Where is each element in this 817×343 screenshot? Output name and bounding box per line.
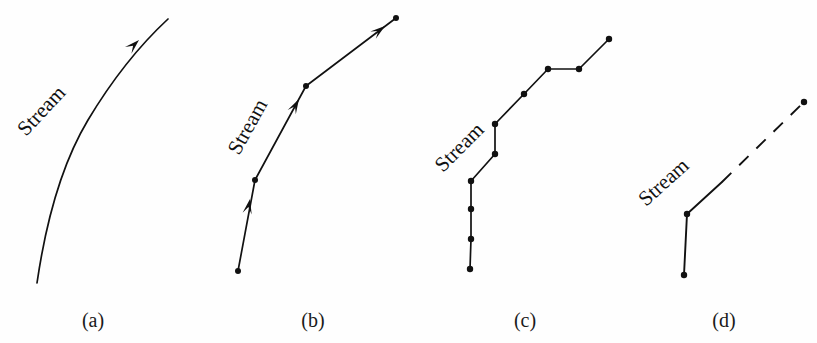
arrowhead	[288, 99, 299, 114]
panel-a-drawing: Stream	[12, 19, 168, 283]
stream-label-c: Stream	[430, 118, 489, 177]
stream-node-dot	[252, 177, 258, 183]
stream-node-dot	[393, 15, 399, 21]
panel-caption-c: (c)	[495, 310, 555, 330]
vertex-group-c	[467, 36, 612, 272]
figure-drawing-canvas: Stream Stream Stream Stream	[0, 0, 817, 343]
stream-segments-b	[238, 18, 396, 271]
stream-node-dot	[684, 211, 690, 217]
panel-caption-a: (a)	[63, 310, 123, 330]
panel-d-drawing: Stream	[633, 99, 807, 278]
stream-node-dot	[492, 151, 498, 157]
vertex-group-b	[235, 15, 399, 274]
stream-node-dot	[681, 272, 687, 278]
stream-node-dot	[303, 83, 309, 89]
stream-solid-segments-d	[684, 182, 722, 275]
panel-caption-d: (d)	[694, 310, 754, 330]
stream-node-dot	[468, 236, 474, 242]
stream-segment	[684, 214, 687, 275]
stream-node-dot	[576, 66, 582, 72]
stream-node-dot	[545, 66, 551, 72]
stream-label-d: Stream	[633, 153, 693, 211]
stream-node-dot	[801, 99, 807, 105]
stream-node-dot	[468, 178, 474, 184]
stream-polyline-c	[470, 39, 609, 269]
stream-node-dot	[468, 206, 474, 212]
stream-representation-figure: Stream Stream Stream Stream (a) (b) (c) …	[0, 0, 817, 343]
panel-caption-b: (b)	[283, 310, 343, 330]
stream-label-a: Stream	[12, 81, 70, 141]
stream-label-b: Stream	[222, 95, 272, 159]
stream-dashed-segment-d	[722, 102, 804, 182]
panel-b-drawing: Stream	[222, 15, 399, 274]
stream-node-dot	[606, 36, 612, 42]
stream-node-dot	[467, 266, 473, 272]
stream-curve-a	[37, 19, 168, 283]
stream-segment	[687, 182, 722, 214]
vertex-group-d	[681, 99, 807, 278]
stream-node-dot	[492, 121, 498, 127]
panel-c-drawing: Stream	[430, 36, 613, 272]
stream-node-dot	[235, 268, 241, 274]
stream-node-dot	[521, 91, 527, 97]
stream-segment	[238, 180, 255, 271]
